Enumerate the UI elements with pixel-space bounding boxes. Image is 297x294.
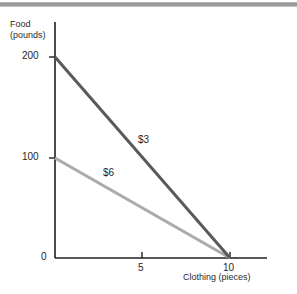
series-line-price-6 [55, 158, 230, 258]
series-line-price-3 [55, 57, 230, 258]
y-tick-label-200: 200 [22, 50, 39, 61]
y-tick-label-100: 100 [22, 151, 39, 162]
y-axis-title-line2: (pounds) [10, 30, 46, 41]
series-annotation-price-3: $3 [138, 134, 149, 145]
y-axis-title: Food (pounds) [10, 19, 46, 41]
x-tick-label-10: 10 [223, 262, 234, 273]
y-tick-label-0: 0 [41, 251, 47, 262]
budget-constraint-chart: Food (pounds) Clothing (pieces) 200 100 … [0, 0, 297, 294]
series-annotation-price-6: $6 [103, 167, 114, 178]
plot-area [0, 0, 297, 294]
x-tick-label-5: 5 [138, 262, 144, 273]
x-axis-title: Clothing (pieces) [183, 272, 251, 283]
y-axis-title-line1: Food [10, 19, 46, 30]
